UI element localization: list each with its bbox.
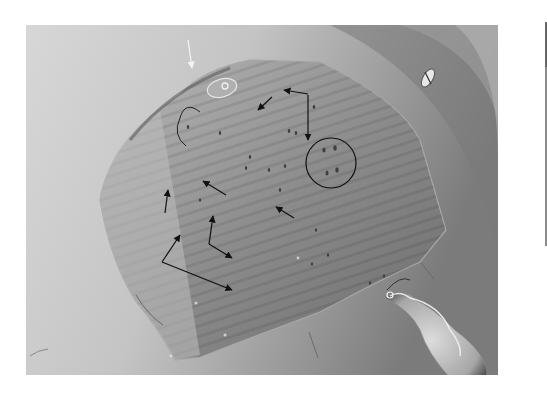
figure [0, 0, 547, 413]
micrograph-photo [26, 25, 498, 389]
